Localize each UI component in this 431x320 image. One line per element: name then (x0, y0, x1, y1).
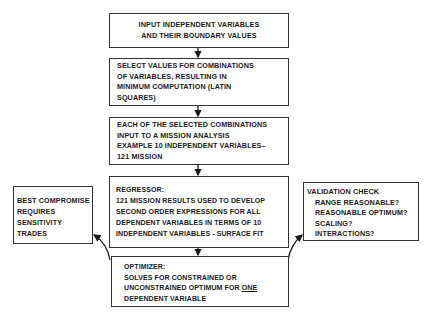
node-text: DEPENDENT VARIABLE (124, 294, 288, 305)
node-text: 121 MISSION (117, 152, 288, 163)
arrow-optimizer-to-validation (288, 235, 302, 260)
node-text: SENSITIVITY (17, 217, 92, 228)
node-text: EXAMPLE 10 INDEPENDENT VARIABLES– (117, 141, 288, 152)
node-text: SQUARES) (117, 93, 288, 104)
arrow-optimizer-to-compromise (94, 235, 110, 260)
node-text: MINIMUM COMPUTATION (LATIN (117, 82, 288, 93)
node-text: INTERACTIONS? (307, 229, 418, 240)
node-select: SELECT VALUES FOR COMBINATIONS OF VARIAB… (109, 58, 289, 106)
node-text: REGRESSOR: (116, 184, 288, 195)
node-text: INDEPENDENT VARIABLES - SURFACE FIT (116, 228, 288, 239)
node-text: OF VARIABLES, RESULTING IN (117, 72, 288, 83)
node-input: INPUT INDEPENDENT VARIABLES AND THEIR BO… (109, 13, 289, 48)
node-text: INPUT TO A MISSION ANALYSIS (117, 131, 288, 142)
node-text: UNCONSTRAINED OPTIMUM FOR ONE (124, 283, 288, 294)
emphasis-text: ONE (242, 284, 257, 291)
node-text: EACH OF THE SELECTED COMBINATIONS (117, 120, 288, 131)
node-text: SECOND ORDER EXPRESSIONS FOR ALL (116, 206, 288, 217)
node-validation: VALIDATION CHECK RANGE REASONABLE? REASO… (303, 182, 419, 241)
node-text: 121 MISSION RESULTS USED TO DEVELOP (116, 195, 288, 206)
node-regressor: REGRESSOR: 121 MISSION RESULTS USED TO D… (109, 176, 289, 248)
node-text: REQUIRES (17, 206, 92, 217)
node-text: TRADES (17, 228, 92, 239)
node-text: INPUT INDEPENDENT VARIABLES (110, 20, 288, 31)
node-text: RANGE REASONABLE? (307, 198, 418, 209)
node-optimizer: OPTIMIZER: SOLVES FOR CONSTRAINED OR UNC… (111, 256, 289, 307)
node-text: AND THEIR BOUNDARY VALUES (110, 31, 288, 42)
node-mission: EACH OF THE SELECTED COMBINATIONS INPUT … (109, 117, 289, 165)
node-text: BEST COMPROMISE (17, 195, 92, 206)
node-compromise: BEST COMPROMISE REQUIRES SENSITIVITY TRA… (13, 186, 93, 244)
node-text: UNCONSTRAINED OPTIMUM FOR (124, 284, 242, 291)
node-text: SCALING? (307, 219, 418, 230)
node-text: SELECT VALUES FOR COMBINATIONS (117, 61, 288, 72)
node-text: DEPENDENT VARIABLES IN TERMS OF 10 (116, 217, 288, 228)
node-text: REASONABLE OPTIMUM? (307, 208, 418, 219)
node-text: VALIDATION CHECK (307, 187, 418, 198)
node-text: OPTIMIZER: (124, 262, 288, 273)
node-text: SOLVES FOR CONSTRAINED OR (124, 273, 288, 284)
